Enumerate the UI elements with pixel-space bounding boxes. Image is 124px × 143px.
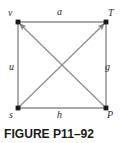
vertex-dot-v (16, 20, 21, 25)
vertex-label-v: v (8, 8, 12, 18)
edge-label-g: g (105, 62, 110, 72)
edge-label-a: a (57, 7, 62, 17)
vertex-dot-s (16, 106, 21, 111)
vertex-dot-T (104, 20, 109, 25)
edge-label-h: h (57, 110, 62, 120)
diagonal-s-to-T (19, 24, 104, 107)
figure-container: v T s P a u g h FIGURE P11–92 (0, 0, 124, 143)
diagonal-P-to-v (20, 24, 105, 107)
edge-label-u: u (9, 62, 14, 72)
diagram-area: v T s P a u g h (0, 0, 124, 125)
vertex-label-T: T (108, 8, 114, 18)
vertex-label-s: s (9, 110, 13, 120)
vertex-label-P: P (107, 110, 113, 120)
figure-caption: FIGURE P11–92 (4, 126, 94, 141)
